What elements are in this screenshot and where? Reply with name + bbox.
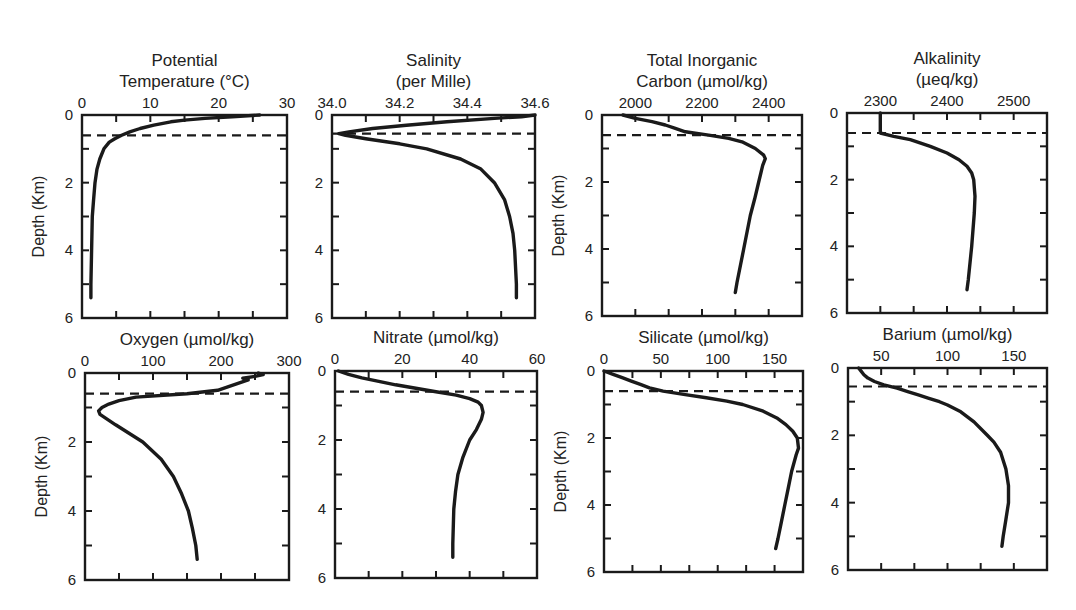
panel-tic: Total InorganicCarbon (µmol/kg)200022002… bbox=[550, 51, 802, 324]
profile-curve-tic bbox=[623, 115, 765, 293]
plot-frame bbox=[602, 115, 802, 316]
panel-title: (per Mille) bbox=[396, 72, 472, 91]
y-tick-label: 4 bbox=[831, 494, 839, 511]
y-tick-label: 0 bbox=[68, 364, 76, 381]
x-tick-label: 0 bbox=[600, 350, 608, 367]
x-tick-label: 0 bbox=[81, 352, 89, 369]
panel-alkalinity: Alkalinity(µeq/kg)2300240025000246 bbox=[830, 49, 1047, 321]
y-tick-label: 6 bbox=[65, 309, 73, 326]
panel-oxygen: Oxygen (µmol/kg)01002003000246Depth (Km) bbox=[33, 330, 302, 588]
y-tick-label: 6 bbox=[831, 561, 839, 578]
depth-axis-label: Depth (Km) bbox=[33, 436, 50, 518]
y-tick-label: 6 bbox=[318, 569, 326, 586]
y-tick-label: 2 bbox=[65, 174, 73, 191]
y-tick-label: 6 bbox=[585, 307, 593, 324]
y-tick-label: 0 bbox=[830, 104, 838, 121]
x-tick-label: 2400 bbox=[930, 92, 963, 109]
x-tick-label: 50 bbox=[873, 347, 890, 364]
ocean-profiles-figure: PotentialTemperature (°C)01020300246Dept… bbox=[0, 0, 1076, 610]
panel-title: Temperature (°C) bbox=[119, 72, 250, 91]
depth-axis-label: Depth (Km) bbox=[550, 175, 567, 257]
y-tick-label: 4 bbox=[318, 500, 326, 517]
y-tick-label: 0 bbox=[315, 106, 323, 123]
x-tick-label: 200 bbox=[208, 352, 233, 369]
y-tick-label: 0 bbox=[318, 362, 326, 379]
profile-curve-barium bbox=[859, 368, 1009, 546]
x-tick-label: 300 bbox=[276, 352, 301, 369]
plot-frame bbox=[335, 371, 537, 578]
y-tick-label: 2 bbox=[315, 174, 323, 191]
y-tick-label: 6 bbox=[830, 304, 838, 321]
plot-frame bbox=[82, 115, 287, 318]
y-tick-label: 4 bbox=[830, 237, 838, 254]
x-tick-label: 2400 bbox=[752, 94, 785, 111]
profile-curve-temperature bbox=[91, 115, 260, 298]
y-tick-label: 6 bbox=[587, 563, 595, 580]
plot-frame bbox=[604, 371, 803, 572]
plot-frame bbox=[332, 115, 535, 318]
panel-title: Salinity bbox=[406, 51, 461, 70]
panel-salinity: Salinity(per Mille)34.034.234.434.60246 bbox=[315, 51, 550, 326]
panel-title: Oxygen (µmol/kg) bbox=[120, 330, 255, 349]
panel-title: Silicate (µmol/kg) bbox=[638, 328, 769, 347]
y-tick-label: 0 bbox=[587, 362, 595, 379]
y-tick-label: 0 bbox=[585, 106, 593, 123]
y-tick-label: 2 bbox=[68, 433, 76, 450]
x-tick-label: 2200 bbox=[685, 94, 718, 111]
y-tick-label: 6 bbox=[68, 571, 76, 588]
x-tick-label: 34.6 bbox=[520, 94, 549, 111]
y-tick-label: 4 bbox=[585, 240, 593, 257]
x-tick-label: 20 bbox=[210, 94, 227, 111]
y-tick-label: 2 bbox=[585, 173, 593, 190]
x-tick-label: 2300 bbox=[864, 92, 897, 109]
y-tick-label: 2 bbox=[830, 171, 838, 188]
panel-nitrate: Nitrate (µmol/kg)02040600246 bbox=[318, 328, 546, 586]
x-tick-label: 34.4 bbox=[453, 94, 482, 111]
x-tick-label: 2500 bbox=[997, 92, 1030, 109]
y-tick-label: 2 bbox=[318, 431, 326, 448]
profile-curve-nitrate bbox=[338, 371, 483, 557]
y-tick-label: 4 bbox=[587, 496, 595, 513]
x-tick-label: 34.2 bbox=[385, 94, 414, 111]
panel-title: Nitrate (µmol/kg) bbox=[373, 328, 499, 347]
x-tick-label: 100 bbox=[935, 347, 960, 364]
x-tick-label: 60 bbox=[529, 350, 546, 367]
panel-title: Total Inorganic bbox=[647, 51, 758, 70]
x-tick-label: 50 bbox=[653, 350, 670, 367]
profile-curve-alkalinity bbox=[880, 113, 975, 290]
x-tick-label: 0 bbox=[78, 94, 86, 111]
x-tick-label: 30 bbox=[279, 94, 296, 111]
plot-frame bbox=[847, 113, 1047, 313]
y-tick-label: 4 bbox=[68, 502, 76, 519]
y-tick-label: 0 bbox=[65, 106, 73, 123]
y-tick-label: 2 bbox=[587, 429, 595, 446]
profile-curve-silicate bbox=[604, 371, 799, 549]
y-tick-label: 4 bbox=[65, 241, 73, 258]
panel-title: Alkalinity bbox=[913, 49, 981, 68]
x-tick-label: 100 bbox=[140, 352, 165, 369]
x-tick-label: 40 bbox=[461, 350, 478, 367]
x-tick-label: 2000 bbox=[619, 94, 652, 111]
profile-curve-salinity bbox=[339, 115, 535, 298]
x-tick-label: 20 bbox=[394, 350, 411, 367]
panel-title: Barium (µmol/kg) bbox=[883, 325, 1013, 344]
panel-title: Potential bbox=[151, 51, 217, 70]
x-tick-label: 0 bbox=[331, 350, 339, 367]
x-tick-label: 150 bbox=[1001, 347, 1026, 364]
panel-barium: Barium (µmol/kg)501001500246 bbox=[831, 325, 1047, 578]
y-tick-label: 4 bbox=[315, 241, 323, 258]
profile-curve-oxygen bbox=[99, 373, 264, 559]
plot-frame bbox=[85, 373, 289, 580]
panel-temperature: PotentialTemperature (°C)01020300246Dept… bbox=[30, 51, 295, 326]
panel-silicate: Silicate (µmol/kg)0501001500246Depth (Km… bbox=[552, 328, 803, 580]
panel-title: Carbon (µmol/kg) bbox=[636, 72, 768, 91]
depth-axis-label: Depth (Km) bbox=[552, 431, 569, 513]
x-tick-label: 150 bbox=[762, 350, 787, 367]
y-tick-label: 2 bbox=[831, 426, 839, 443]
x-tick-label: 100 bbox=[705, 350, 730, 367]
y-tick-label: 6 bbox=[315, 309, 323, 326]
x-tick-label: 10 bbox=[142, 94, 159, 111]
panel-title: (µeq/kg) bbox=[916, 70, 979, 89]
y-tick-label: 0 bbox=[831, 359, 839, 376]
plot-frame bbox=[848, 368, 1047, 570]
